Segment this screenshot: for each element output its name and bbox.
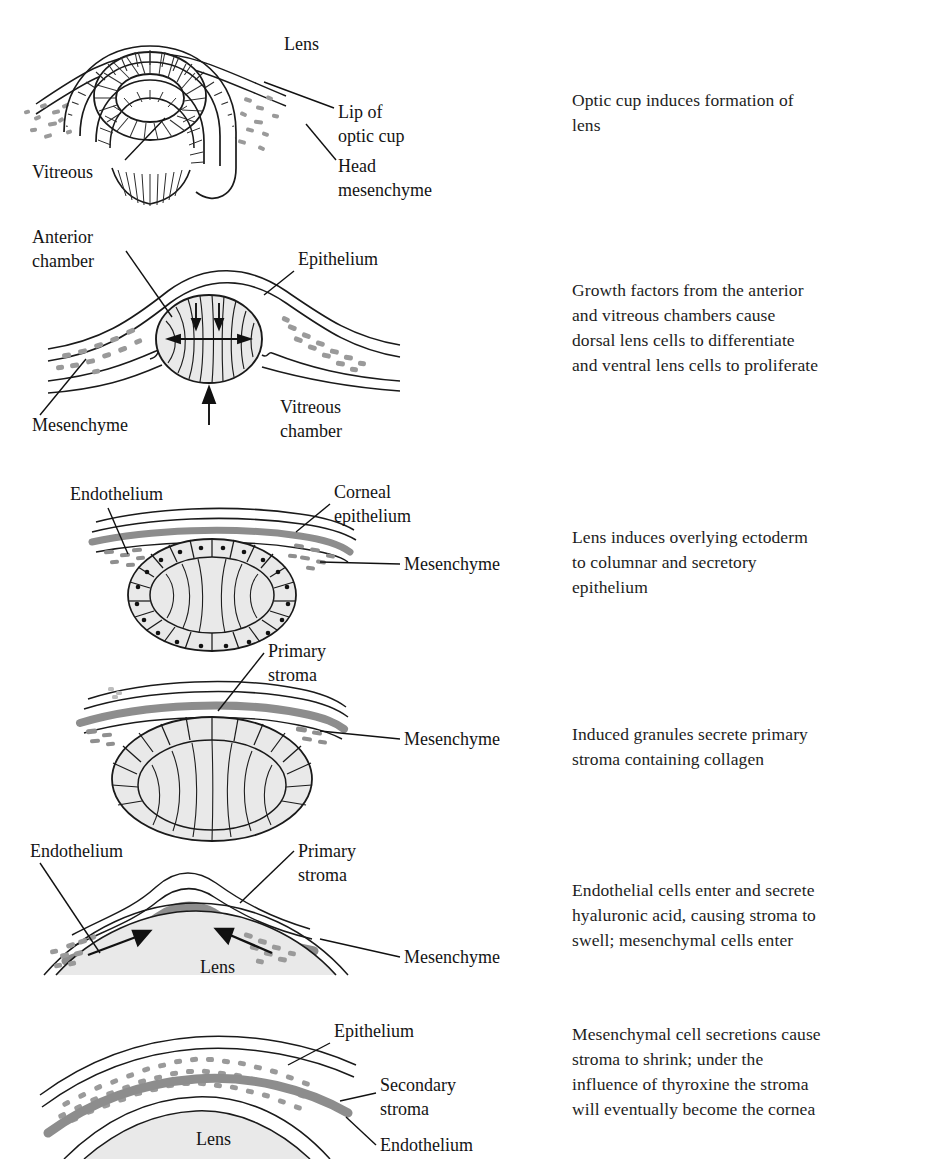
label-corneal-epithelium-line1: Corneal: [334, 482, 391, 502]
lens-dome: [56, 911, 336, 975]
label-lens: Lens: [284, 34, 319, 54]
label-primary-stroma-line1: Primary: [268, 641, 326, 661]
label-head-mesenchyme-line2: mesenchyme: [338, 180, 432, 200]
label-mesenchyme: Mesenchyme: [404, 947, 500, 967]
leader-mesenchyme-5: [320, 939, 400, 957]
label-endothelium: Endothelium: [70, 484, 163, 504]
label-endothelium: Endothelium: [380, 1135, 473, 1155]
caption-line: lens: [572, 113, 922, 138]
head-mesenchyme-stipple-right: [238, 95, 280, 151]
label-lens: Lens: [200, 957, 235, 977]
panel-5-stroma-swell: Endothelium Primary stroma Lens Mesenchy…: [0, 825, 560, 975]
leader-endothelium: [108, 508, 128, 554]
label-anterior-chamber-line1: Anterior: [32, 227, 93, 247]
label-vitreous: Vitreous: [32, 162, 93, 182]
label-corneal-epithelium-line2: epithelium: [334, 506, 411, 526]
leader-lip-of-optic-cup: [264, 82, 334, 108]
label-mesenchyme: Mesenchyme: [32, 415, 128, 435]
label-endothelium: Endothelium: [30, 841, 123, 861]
label-epithelium: Epithelium: [298, 249, 378, 269]
leader-epithelium: [264, 271, 294, 295]
caption-line: hyaluronic acid, causing stroma to: [572, 903, 922, 928]
leader-head-mesenchyme: [306, 124, 336, 160]
caption-line: epithelium: [572, 575, 922, 600]
label-mesenchyme: Mesenchyme: [404, 729, 500, 749]
caption-panel-2: Growth factors from the anterior and vit…: [572, 278, 922, 378]
label-primary-stroma-line1: Primary: [298, 841, 356, 861]
lens-body: [156, 295, 262, 383]
panel-2-lens-vesicle: Anterior chamber Epithelium Mesenchyme V…: [0, 225, 560, 440]
lens-with-cell-ring: [128, 539, 296, 651]
caption-line: and vitreous chambers cause: [572, 303, 922, 328]
label-head-mesenchyme-line1: Head: [338, 156, 376, 176]
caption-panel-3: Lens induces overlying ectoderm to colum…: [572, 525, 922, 600]
caption-line: Optic cup induces formation of: [572, 88, 922, 113]
lens-with-cell-ring-4: [112, 717, 312, 841]
caption-line: Growth factors from the anterior: [572, 278, 922, 303]
leader-endothelium-6: [346, 1117, 376, 1145]
caption-panel-6: Mesenchymal cell secretions cause stroma…: [572, 1022, 922, 1122]
leader-primary-stroma-5: [240, 851, 294, 903]
panel-3-columnar-epithelium: Endothelium Corneal epithelium Mesenchym…: [0, 470, 560, 660]
label-lens: Lens: [196, 1129, 231, 1149]
label-primary-stroma-line2: stroma: [298, 865, 347, 885]
label-vitreous-chamber-line1: Vitreous: [280, 397, 341, 417]
caption-panel-1: Optic cup induces formation of lens: [572, 88, 922, 138]
label-lip-of-optic-cup-line2: optic cup: [338, 126, 404, 146]
caption-line: Mesenchymal cell secretions cause: [572, 1022, 922, 1047]
label-primary-stroma-line2: stroma: [268, 665, 317, 685]
label-secondary-stroma-line2: stroma: [380, 1099, 429, 1119]
caption-panel-4: Induced granules secrete primary stroma …: [572, 722, 922, 772]
caption-line: Induced granules secrete primary: [572, 722, 922, 747]
caption-line: stroma to shrink; under the: [572, 1047, 922, 1072]
leader-epithelium-6: [288, 1043, 330, 1065]
label-anterior-chamber-line2: chamber: [32, 251, 94, 271]
label-secondary-stroma-line1: Secondary: [380, 1075, 456, 1095]
panel-4-primary-stroma: Primary stroma Mesenchyme: [0, 645, 560, 825]
leader-secondary-stroma: [340, 1093, 376, 1101]
caption-line: to columnar and secretory: [572, 550, 922, 575]
caption-line: and ventral lens cells to proliferate: [572, 353, 922, 378]
eye-development-figure: Vitreous Lens Lip of optic cup Head mese…: [0, 0, 929, 1159]
caption-line: will eventually become the cornea: [572, 1097, 922, 1122]
caption-line: swell; mesenchymal cells enter: [572, 928, 922, 953]
mesenchyme-dashes-right-4: [296, 726, 328, 744]
panel-1-optic-cup: Vitreous Lens Lip of optic cup Head mese…: [0, 0, 560, 225]
mesenchyme-dashes-left-4: [86, 728, 115, 746]
label-mesenchyme: Mesenchyme: [404, 554, 500, 574]
leader-anterior-chamber: [126, 251, 172, 317]
caption-line: Endothelial cells enter and secrete: [572, 878, 922, 903]
caption-line: dorsal lens cells to differentiate: [572, 328, 922, 353]
ventral-arrow: [203, 387, 215, 425]
label-vitreous-chamber-line2: chamber: [280, 421, 342, 441]
panel-6-secondary-stroma: Epithelium Secondary stroma Endothelium …: [0, 985, 560, 1159]
caption-line: Lens induces overlying ectoderm: [572, 525, 922, 550]
leader-endothelium-5: [40, 863, 100, 953]
caption-line: stroma containing collagen: [572, 747, 922, 772]
label-lip-of-optic-cup-line1: Lip of: [338, 102, 383, 122]
label-epithelium: Epithelium: [334, 1021, 414, 1041]
caption-line: influence of thyroxine the stroma: [572, 1072, 922, 1097]
leader-mesenchyme: [320, 562, 400, 564]
caption-panel-5: Endothelial cells enter and secrete hyal…: [572, 878, 922, 953]
